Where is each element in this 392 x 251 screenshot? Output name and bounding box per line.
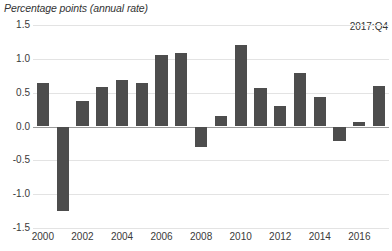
x-axis-tick-label: 2006 — [150, 231, 172, 243]
x-axis-tick-label: 2012 — [269, 231, 291, 243]
bar — [333, 127, 345, 141]
bar — [155, 55, 167, 126]
gridline — [33, 228, 389, 229]
bar — [195, 127, 207, 147]
x-axis-labels: 200020022004200620082010201220142016 — [33, 231, 389, 247]
chart-figure: Percentage points (annual rate) 2017:Q4 … — [0, 0, 392, 251]
x-axis-tick-label: 2016 — [348, 231, 370, 243]
y-axis-tick-label: 1.5 — [16, 20, 30, 30]
x-axis-tick-label: 2002 — [71, 231, 93, 243]
bar — [235, 45, 247, 126]
bar — [175, 53, 187, 126]
y-axis-tick-label: -0.5 — [13, 155, 30, 165]
bar — [254, 88, 266, 127]
bar — [353, 122, 365, 126]
plot-area — [33, 25, 389, 228]
chart-axis-title: Percentage points (annual rate) — [4, 2, 148, 14]
x-axis-tick-label: 2014 — [309, 231, 331, 243]
bar — [314, 97, 326, 126]
bar — [96, 87, 108, 126]
x-axis-tick-label: 2010 — [230, 231, 252, 243]
y-axis-tick-label: 1.0 — [16, 54, 30, 64]
bar — [215, 116, 227, 126]
x-axis-tick-label: 2008 — [190, 231, 212, 243]
x-axis-tick-label: 2000 — [32, 231, 54, 243]
y-axis-tick-label: -1.5 — [13, 223, 30, 233]
gridline — [33, 194, 389, 195]
gridline — [33, 59, 389, 60]
gridline — [33, 25, 389, 26]
gridline — [33, 93, 389, 94]
y-axis-tick-label: 0.0 — [16, 122, 30, 132]
x-axis-tick-label: 2004 — [111, 231, 133, 243]
bar — [274, 106, 286, 127]
bar — [116, 80, 128, 126]
bar — [373, 86, 385, 127]
y-axis-tick-label: -1.0 — [13, 189, 30, 199]
gridline — [33, 160, 389, 161]
bar — [57, 127, 69, 212]
bar — [76, 101, 88, 127]
y-axis-tick-label: 0.5 — [16, 88, 30, 98]
y-axis-labels: 1.51.00.50.0-0.5-1.0-1.5 — [0, 25, 30, 228]
bar — [136, 83, 148, 126]
bar — [37, 83, 49, 127]
bar — [294, 73, 306, 126]
